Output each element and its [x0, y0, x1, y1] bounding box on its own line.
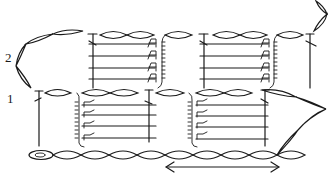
row1-bars: [82, 105, 268, 139]
slip-knot-icon: [29, 151, 53, 160]
row-label-1: 1: [7, 92, 14, 105]
row-label-2: 2: [5, 51, 12, 64]
crochet-diagram: 2 1: [0, 0, 333, 181]
row2-hooks: [148, 39, 269, 82]
row1-bobble-columns: [75, 93, 197, 147]
top-right-continuing-chain: [314, 1, 327, 31]
repeat-arrow-icon: [166, 162, 279, 172]
row2-tall-stitches: [88, 34, 316, 88]
row2-bars: [89, 44, 268, 79]
right-turning-chain: [262, 90, 326, 155]
row2-top-chain: [100, 32, 303, 39]
stitch-chart-graphic: [0, 0, 333, 181]
foundation-chain: [29, 151, 305, 160]
left-turning-chain: [16, 30, 83, 88]
row2-bobble-columns: [158, 35, 277, 88]
